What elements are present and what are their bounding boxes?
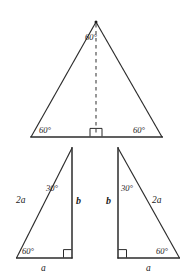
apex-vertex-dot [95,21,98,24]
right-triangle-bottom-angle-label: 60° [156,246,169,256]
equilateral-right-side [96,22,162,137]
equilateral-right-base-angle-label: 60° [133,125,146,135]
right-triangle-top-angle-label: 30° [120,183,134,193]
right-triangle-horizontal-leg-label: a [146,263,151,273]
left-triangle-hypotenuse-label: 2a [16,195,26,205]
equilateral-apex-angle-label: 60° [85,32,98,42]
left-right-triangle: 30° 60° 2a b a [16,147,81,273]
left-triangle-top-angle-label: 30° [45,183,59,193]
equilateral-left-base-angle-label: 60° [39,125,52,135]
geometry-diagram: 60° 60° 60° 30° 60° 2a b a 30° 60° 2a b … [0,0,195,280]
right-right-triangle: 30° 60° 2a b a [106,147,180,273]
right-triangle-hypotenuse-label: 2a [152,195,162,205]
left-triangle-bottom-angle-label: 60° [22,246,35,256]
right-angle-marker-left-triangle [64,250,72,258]
right-triangle-vertical-leg-label: b [106,195,111,206]
right-angle-marker-right-triangle [118,250,126,258]
equilateral-triangle: 60° 60° 60° [30,21,163,138]
left-triangle-horizontal-leg-label: a [41,263,46,273]
right-triangle-hypotenuse [118,148,180,258]
left-triangle-vertical-leg-label: b [76,195,81,206]
